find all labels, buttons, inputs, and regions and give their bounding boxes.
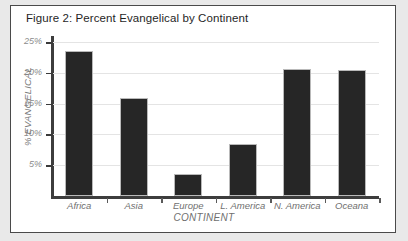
bar [120, 98, 148, 196]
gridline [52, 165, 379, 166]
x-axis-title: CONTINENT [11, 212, 397, 223]
y-axis-spine [51, 36, 54, 198]
y-tick-mark [46, 73, 53, 75]
x-tick-label: Africa [52, 200, 107, 211]
gridline [52, 104, 379, 105]
bar-chart-plot: 5%10%15%20%25% AfricaAsiaEuropeL. Americ… [11, 6, 397, 234]
gridline [52, 73, 379, 74]
y-tick-mark [46, 42, 53, 44]
x-tick-label: L. America [216, 200, 271, 211]
bar [338, 70, 366, 196]
bar [174, 174, 202, 196]
x-tick-label: Oceana [325, 200, 380, 211]
bar [229, 144, 257, 196]
figure-panel: Figure 2: Percent Evangelical by Contine… [10, 5, 396, 233]
y-tick-mark [46, 165, 53, 167]
gridline [52, 134, 379, 135]
x-tick-label: Europe [161, 200, 216, 211]
gridline [52, 42, 379, 43]
figure-page: Figure 2: Percent Evangelical by Contine… [0, 0, 408, 241]
y-axis-title: % EVANGELICAL [22, 32, 33, 182]
bar [65, 51, 93, 196]
x-tick-label: N. America [270, 200, 325, 211]
x-tick-label: Asia [107, 200, 162, 211]
x-tick-mark [379, 198, 381, 203]
y-tick-mark [46, 134, 53, 136]
y-tick-mark [46, 104, 53, 106]
bar [283, 69, 311, 196]
